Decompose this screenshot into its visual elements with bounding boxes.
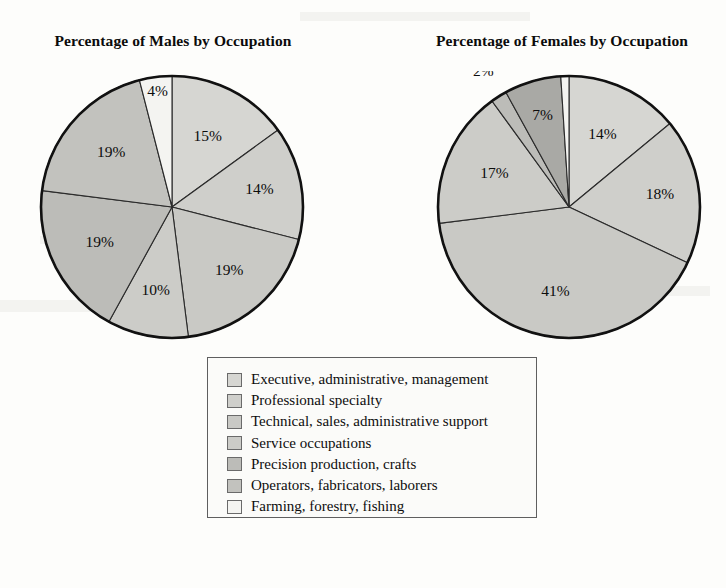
female-pie-svg: 14%18%41%17%2%7%1%: [433, 71, 705, 343]
male-chart-title: Percentage of Males by Occupation: [0, 32, 346, 50]
pie-slice-label: 19%: [85, 233, 114, 250]
pie-slice-label: 19%: [97, 143, 126, 160]
pie-slice-label: 14%: [588, 125, 617, 142]
female-pie-chart: 14%18%41%17%2%7%1%: [433, 71, 705, 343]
pie-slice-label: 14%: [245, 180, 274, 197]
legend-item-label: Technical, sales, administrative support: [251, 414, 488, 429]
legend-swatch: [227, 394, 242, 408]
legend-swatch: [227, 373, 242, 387]
legend-swatch: [227, 415, 242, 429]
legend-item-label: Precision production, crafts: [251, 457, 416, 472]
legend-item-label: Service occupations: [251, 436, 371, 451]
legend-item-label: Professional specialty: [251, 393, 382, 408]
legend-swatch: [227, 500, 242, 514]
legend-item: Farming, forestry, fishing: [227, 496, 527, 517]
legend-item-label: Farming, forestry, fishing: [251, 499, 404, 514]
legend-swatch: [227, 479, 242, 493]
male-pie-svg: 15%14%19%10%19%19%4%: [36, 71, 308, 343]
male-pie-chart: 15%14%19%10%19%19%4%: [36, 71, 308, 343]
legend-list: Executive, administrative, managementPro…: [227, 369, 527, 517]
pie-slice-label: 18%: [646, 185, 675, 202]
chart-legend: Executive, administrative, managementPro…: [207, 357, 537, 518]
pie-slice-label: 19%: [215, 261, 244, 278]
female-chart-title: Percentage of Females by Occupation: [398, 32, 726, 50]
pie-slice-label: 2%: [473, 71, 494, 79]
legend-item: Technical, sales, administrative support: [227, 411, 527, 432]
legend-item: Service occupations: [227, 433, 527, 454]
legend-item: Precision production, crafts: [227, 454, 527, 475]
pie-slice-label: 15%: [193, 127, 222, 144]
legend-swatch: [227, 457, 242, 471]
legend-swatch: [227, 436, 242, 450]
pie-slice-label: 10%: [142, 281, 171, 298]
legend-item-label: Executive, administrative, management: [251, 372, 488, 387]
legend-item: Executive, administrative, management: [227, 369, 527, 390]
pie-slice-label: 7%: [532, 106, 553, 123]
legend-item: Operators, fabricators, laborers: [227, 475, 527, 496]
pie-slice-label: 4%: [147, 82, 168, 99]
page-canvas: Percentage of Males by Occupation 15%14%…: [0, 0, 726, 588]
legend-item: Professional specialty: [227, 390, 527, 411]
pie-slice-label: 17%: [480, 164, 509, 181]
legend-item-label: Operators, fabricators, laborers: [251, 478, 438, 493]
pie-slice-label: 41%: [541, 282, 570, 299]
